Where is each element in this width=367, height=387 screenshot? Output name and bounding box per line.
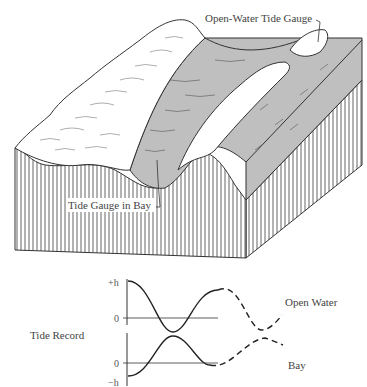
bay-series-label: Bay [288,359,306,371]
tick-plus-h: +h [108,277,119,288]
tide-record-title: Tide Record [30,329,85,341]
bay-curve-projected [210,338,283,366]
tick-minus-h: −h [108,377,119,387]
open-water-curve [128,281,218,332]
tide-diagram: Tide Gauge in Bay Open-Water Tide Gauge … [0,0,367,387]
bay-curve [128,336,210,376]
tide-record-chart: +h 0 0 −h Tide Record Open Water Bay [30,277,338,387]
tick-zero-bottom: 0 [114,358,119,369]
open-water-series-label: Open Water [285,296,338,308]
tick-zero-top: 0 [114,313,119,324]
bay-gauge-label: Tide Gauge in Bay [68,199,152,211]
open-water-gauge-label: Open-Water Tide Gauge [205,12,312,24]
open-water-curve-projected [218,289,282,330]
